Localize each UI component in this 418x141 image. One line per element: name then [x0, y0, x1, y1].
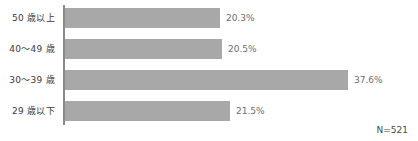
bar-1 — [65, 39, 222, 59]
category-label-0: 50 歳以上 — [0, 8, 55, 28]
category-label-1: 40～49 歳 — [0, 39, 55, 59]
bar-0 — [65, 8, 220, 28]
bar-row: 50 歳以上 20.3% — [0, 8, 418, 28]
bar-3 — [65, 101, 230, 121]
bar-row: 29 歳以下 21.5% — [0, 101, 418, 121]
category-label-3: 29 歳以下 — [0, 101, 55, 121]
value-label-3: 21.5% — [236, 101, 265, 121]
bar-row: 30～39 歳 37.6% — [0, 70, 418, 90]
bar-row: 40～49 歳 20.5% — [0, 39, 418, 59]
bar-2 — [65, 70, 348, 90]
value-label-1: 20.5% — [228, 39, 257, 59]
value-label-2: 37.6% — [354, 70, 383, 90]
sample-size-note: N=521 — [377, 125, 408, 135]
value-label-0: 20.3% — [226, 8, 255, 28]
category-label-2: 30～39 歳 — [0, 70, 55, 90]
bar-chart: 50 歳以上 20.3% 40～49 歳 20.5% 30～39 歳 37.6%… — [0, 0, 418, 141]
